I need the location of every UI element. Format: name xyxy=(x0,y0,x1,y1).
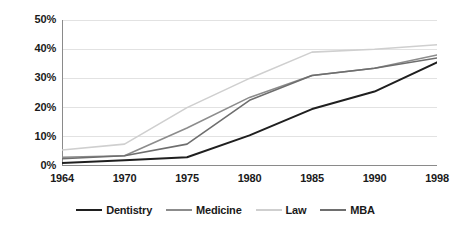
legend-swatch-icon xyxy=(320,209,346,211)
line-chart: 0%10%20%30%40%50% 1964197019751980198519… xyxy=(0,0,451,236)
legend-label: Dentistry xyxy=(106,204,152,216)
legend-item-dentistry[interactable]: Dentistry xyxy=(76,204,152,216)
series-line-mba xyxy=(62,58,437,159)
y-tick-label: 50% xyxy=(8,14,56,25)
y-tick-label: 20% xyxy=(8,102,56,113)
x-tick-label: 1985 xyxy=(300,172,324,184)
y-tick-label: 40% xyxy=(8,43,56,54)
legend-label: Law xyxy=(286,204,307,216)
x-tick-label: 1970 xyxy=(113,172,137,184)
y-tick-label: 0% xyxy=(8,160,56,171)
legend-swatch-icon xyxy=(76,209,102,211)
y-tick-label: 10% xyxy=(8,131,56,142)
x-tick-label: 1980 xyxy=(238,172,262,184)
x-tick-label: 1990 xyxy=(363,172,387,184)
legend-swatch-icon xyxy=(166,209,192,211)
legend-label: Medicine xyxy=(196,204,241,216)
plot-area xyxy=(62,20,437,166)
legend-label: MBA xyxy=(350,204,374,216)
x-tick-label: 1975 xyxy=(175,172,199,184)
legend-item-mba[interactable]: MBA xyxy=(320,204,374,216)
x-tick-label: 1998 xyxy=(425,172,449,184)
legend-item-law[interactable]: Law xyxy=(256,204,307,216)
y-tick-label: 30% xyxy=(8,72,56,83)
legend-swatch-icon xyxy=(256,209,282,211)
series-line-medicine xyxy=(62,55,437,157)
legend-item-medicine[interactable]: Medicine xyxy=(166,204,241,216)
x-tick-label: 1964 xyxy=(50,172,74,184)
chart-legend: DentistryMedicineLawMBA xyxy=(0,201,451,219)
plot-svg xyxy=(62,20,437,166)
series-line-dentistry xyxy=(62,62,437,163)
x-axis: 1964197019751980198519901998 xyxy=(62,172,437,188)
